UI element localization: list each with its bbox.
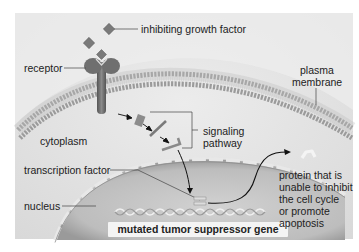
label-protein-3: the cell cycle — [279, 193, 339, 205]
label-protein-2: unable to inhibit — [279, 181, 353, 193]
label-plasma-membrane-1: plasma — [300, 64, 334, 76]
label-plasma-membrane-2: membrane — [292, 76, 342, 88]
label-protein-5: apoptosis — [279, 217, 324, 229]
label-nucleus: nucleus — [24, 200, 60, 212]
label-mutated-gene: mutated tumor suppressor gene — [108, 222, 288, 237]
label-inhibiting-growth-factor: inhibiting growth factor — [141, 23, 246, 35]
label-protein-1: protein that is — [279, 169, 342, 181]
label-signaling-pathway-2: pathway — [203, 137, 242, 149]
label-cytoplasm: cytoplasm — [40, 135, 87, 147]
label-protein-4: or promote — [279, 205, 330, 217]
label-receptor: receptor — [24, 62, 63, 74]
label-transcription-factor: transcription factor — [24, 164, 110, 176]
label-signaling-pathway-1: signaling — [203, 125, 244, 137]
